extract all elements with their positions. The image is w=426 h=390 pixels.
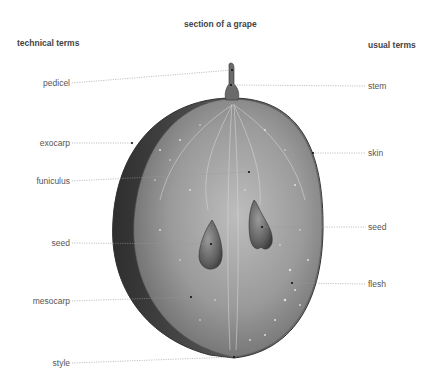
- grape-stem-shape: [225, 63, 239, 100]
- label-stem: stem: [368, 81, 386, 91]
- label-seed-technical: seed: [52, 238, 70, 248]
- grape-illustration: [0, 0, 426, 390]
- label-pedicel: pedicel: [43, 78, 70, 88]
- label-mesocarp: mesocarp: [33, 296, 70, 306]
- label-skin: skin: [368, 148, 383, 158]
- label-exocarp: exocarp: [40, 138, 70, 148]
- label-flesh: flesh: [368, 279, 386, 289]
- label-seed-usual: seed: [368, 222, 386, 232]
- label-funiculus: funiculus: [36, 176, 70, 186]
- label-style: style: [53, 358, 70, 368]
